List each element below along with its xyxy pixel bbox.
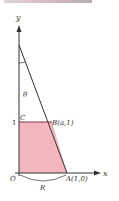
region-r-label: R — [39, 184, 46, 192]
y-axis-label: y — [15, 13, 21, 22]
r-arc — [20, 175, 66, 181]
y-axis-arrow-icon — [17, 25, 22, 32]
x-axis-label: x — [103, 169, 108, 178]
shaded-region-r — [19, 122, 67, 173]
geometry-figure: y x θ 1 C B(a,1) O A(1,0) R — [0, 0, 119, 201]
origin-label: O — [10, 175, 16, 183]
y-tick-label: 1 — [12, 119, 16, 127]
point-c-label: C — [20, 114, 26, 122]
point-b-label: B(a,1) — [51, 119, 74, 127]
point-a-label: A(1,0) — [65, 175, 88, 183]
theta-arc — [19, 62, 25, 63]
x-axis-arrow-icon — [94, 171, 101, 176]
theta-label: θ — [23, 91, 28, 99]
